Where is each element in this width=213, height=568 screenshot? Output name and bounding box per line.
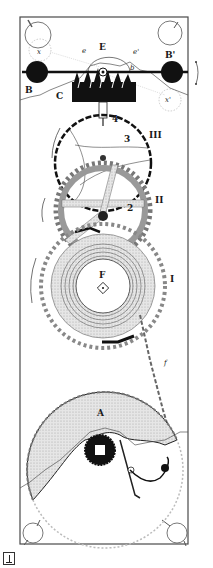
label-B-prime: B' [165,50,175,60]
label-e: e [82,47,86,55]
label-II: II [155,195,163,205]
label-x-prime: x' [165,96,171,104]
balance-weight-right [161,61,183,83]
pinion-2 [98,211,108,221]
label-E: E [99,42,106,52]
wheel-III [55,115,151,211]
figure-marker [3,552,15,565]
label-f: f [163,359,168,367]
motion-arrow-right-top [195,61,198,85]
clockwork-diagram: x E e e' B B' b C x' 4 3 III 2 II F I f … [0,0,213,568]
label-F: F [99,270,106,280]
label-4: 4 [112,114,118,124]
label-I: I [170,274,174,284]
label-2: 2 [127,203,133,213]
balance-weight-left [26,61,48,83]
label-e-prime: e' [133,48,139,56]
corner-screw-bl [23,520,43,545]
corner-screw-br [162,520,187,546]
motion-arrow-I [31,258,36,303]
corner-screw-tl [25,20,51,48]
label-III: III [149,130,162,140]
label-b: b [130,64,135,72]
ratchet-wheel [85,435,115,465]
label-C: C [56,91,63,101]
label-B: B [25,85,33,95]
fusee-A [27,392,183,548]
label-3: 3 [124,134,130,144]
label-A: A [96,408,105,418]
figure-marker-base [6,562,12,563]
motion-arrow-II [42,198,45,222]
corner-screw-tr [158,21,182,45]
label-x: x [37,48,41,56]
